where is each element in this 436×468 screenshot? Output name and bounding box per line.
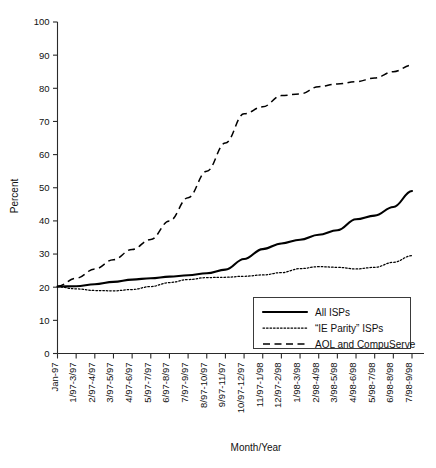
x-tick-label: 4/97-6/97 — [123, 363, 134, 403]
x-tick-label: 1/97-3/97 — [67, 363, 78, 403]
y-tick-label: 90 — [39, 50, 50, 61]
y-tick-label: 10 — [39, 315, 50, 326]
y-tick-label: 40 — [39, 215, 50, 226]
x-tick-label: 4/98-6/98 — [347, 363, 358, 403]
x-tick-label: 7/97-9/97 — [179, 363, 190, 403]
chart-container: Percent 0102030405060708090100 Jan-971/9… — [0, 0, 436, 468]
x-tick-label: 1/98-3/98 — [291, 363, 302, 403]
legend-label: “IE Parity” ISPs — [315, 323, 383, 334]
x-tick-label: Jan-97 — [49, 363, 60, 392]
x-tick-label: 12/97-2/98 — [272, 363, 283, 408]
legend-label: All ISPs — [315, 307, 350, 318]
series-line-dotted — [58, 256, 413, 291]
x-tick-label: 10/97-12/97 — [235, 363, 246, 414]
y-tick-label: 20 — [39, 282, 50, 293]
y-axis-ticks: 0102030405060708090100 — [34, 16, 58, 359]
x-tick-label: 3/97-5/97 — [104, 363, 115, 403]
x-tick-label: 9/97-11/97 — [216, 363, 227, 408]
y-tick-label: 60 — [39, 149, 50, 160]
series-line-dashed — [58, 65, 413, 286]
x-tick-label: 2/98-4/98 — [310, 363, 321, 403]
x-tick-label: 5/97-7/97 — [142, 363, 153, 403]
x-tick-label: 8/97-10/97 — [198, 363, 209, 408]
x-axis-title: Month/Year — [231, 442, 282, 453]
x-tick-label: 5/98-7/98 — [366, 363, 377, 403]
x-tick-label: 11/97-1/98 — [254, 363, 265, 408]
x-tick-label: 2/97-4/97 — [86, 363, 97, 403]
x-tick-label: 3/98-5/98 — [328, 363, 339, 403]
line-chart: Percent 0102030405060708090100 Jan-971/9… — [0, 0, 436, 468]
series-line-solid — [58, 191, 413, 286]
x-axis-ticks: Jan-971/97-3/972/97-4/973/97-5/974/97-6/… — [49, 354, 415, 414]
y-tick-label: 80 — [39, 83, 50, 94]
legend-label: AOL and CompuServe — [315, 339, 416, 350]
y-tick-label: 0 — [44, 348, 49, 359]
y-tick-label: 30 — [39, 248, 50, 259]
chart-legend: All ISPs“IE Parity” ISPsAOL and CompuSer… — [254, 298, 416, 350]
y-axis-title: Percent — [9, 179, 20, 214]
y-tick-label: 100 — [34, 16, 50, 27]
x-tick-label: 6/98-8/98 — [384, 363, 395, 403]
series-group — [58, 65, 413, 291]
y-tick-label: 70 — [39, 116, 50, 127]
y-tick-label: 50 — [39, 182, 50, 193]
x-tick-label: 7/98-9/98 — [403, 363, 414, 403]
x-tick-label: 6/97-8/97 — [160, 363, 171, 403]
